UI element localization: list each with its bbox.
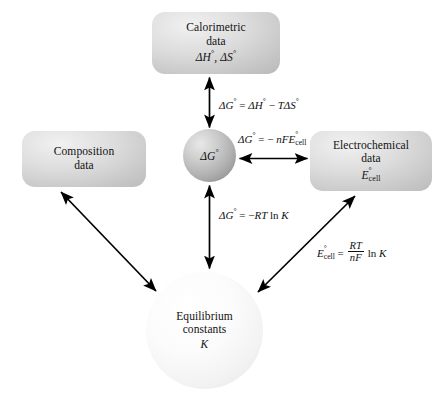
composition-line-2: data [74,159,94,173]
calorimetric-formula: ΔH°, ΔS° [196,49,237,64]
gibbs-label: ΔG° [200,148,218,163]
arrow-composition-to-equilibrium [61,192,156,291]
node-electrochemical-data: Electrochemical data E°cell [310,131,432,191]
electrochemical-line-1: Electrochemical [333,139,409,153]
node-composition-data: Composition data [22,131,146,187]
equation-gibbs-helmholtz: ΔG° = ΔH° − TΔS° [219,97,299,111]
equation-cell-potential-equilibrium: E°cell = RTnF ln K [317,240,386,263]
calorimetric-line-1: Calorimetric [186,21,245,35]
equilibrium-line-2: constants [183,323,227,337]
thermodynamic-relationships-diagram: Calorimetric data ΔH°, ΔS° Composition d… [0,0,442,393]
electrochemical-line-2: data [361,152,381,166]
node-calorimetric-data: Calorimetric data ΔH°, ΔS° [152,12,280,74]
node-equilibrium-constants: Equilibrium constants K [146,272,263,389]
node-gibbs-free-energy: ΔG° [183,129,236,182]
equilibrium-line-1: Equilibrium [176,310,233,324]
equation-gibbs-equilibrium: ΔG° = −RT ln K [219,207,289,221]
equation-nernst-gibbs: ΔG° = − nFE°cell [238,131,306,147]
calorimetric-line-2: data [206,35,226,49]
electrochemical-formula: E°cell [361,167,380,183]
composition-line-1: Composition [54,145,115,159]
equilibrium-formula: K [201,338,209,352]
